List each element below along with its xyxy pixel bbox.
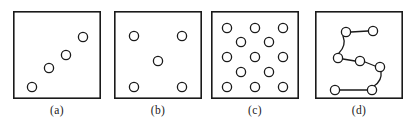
panel-a-plot-area <box>13 11 101 99</box>
point-marker <box>278 23 287 32</box>
panel-a-caption: (a) <box>13 104 101 116</box>
point-marker <box>264 37 273 46</box>
panel-c <box>211 11 299 99</box>
point-marker <box>368 26 377 35</box>
point-marker <box>278 82 287 91</box>
panel-d-border <box>316 12 402 98</box>
point-marker <box>129 82 138 91</box>
panel-b-border <box>115 12 201 98</box>
point-marker <box>250 52 259 61</box>
point-marker <box>177 31 186 40</box>
point-marker <box>222 82 231 91</box>
point-marker <box>264 67 273 76</box>
point-marker <box>355 56 364 65</box>
point-marker <box>27 82 36 91</box>
panel-b <box>114 11 202 99</box>
point-marker <box>236 67 245 76</box>
point-marker <box>222 23 231 32</box>
panel-d-plot-area <box>315 11 403 99</box>
panel-c-caption: (c) <box>211 104 299 116</box>
point-marker <box>250 82 259 91</box>
point-marker <box>367 85 376 94</box>
panel-d-caption: (d) <box>315 104 403 116</box>
panel-b-plot-area <box>114 11 202 99</box>
point-marker <box>236 37 245 46</box>
point-marker <box>250 23 259 32</box>
figure-root: (a) (b) <box>0 0 407 133</box>
point-marker <box>278 52 287 61</box>
point-marker <box>333 53 342 62</box>
panel-c-plot-area <box>211 11 299 99</box>
point-marker <box>177 82 186 91</box>
panel-a-border <box>14 12 100 98</box>
point-marker <box>375 62 384 71</box>
point-marker <box>341 27 350 36</box>
point-marker <box>78 32 87 41</box>
point-marker <box>129 31 138 40</box>
panel-a <box>13 11 101 99</box>
panel-b-caption: (b) <box>114 104 202 116</box>
point-marker <box>44 63 53 72</box>
panel-d <box>315 11 403 99</box>
point-marker <box>330 85 339 94</box>
point-marker <box>61 50 70 59</box>
point-marker <box>222 52 231 61</box>
point-marker <box>153 56 162 65</box>
